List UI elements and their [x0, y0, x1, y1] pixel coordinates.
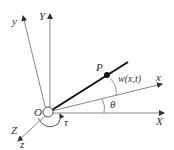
- label-P: P: [95, 61, 103, 73]
- label-X: X: [155, 115, 164, 127]
- y-axis-line: [23, 16, 46, 110]
- label-Z: Z: [11, 124, 18, 136]
- label-x: x: [155, 71, 161, 83]
- label-tau: τ: [64, 116, 69, 128]
- origin-hub: [43, 107, 53, 117]
- deflection-arc: [110, 78, 116, 96]
- label-z: z: [19, 138, 25, 150]
- x-axis-line: [52, 84, 162, 111]
- theta-arc: [102, 99, 105, 113]
- label-y: y: [11, 15, 17, 27]
- label-w: w(x,t): [118, 73, 142, 85]
- label-theta: θ: [110, 98, 116, 110]
- beam: [52, 62, 128, 110]
- rotating-beam-diagram: Y y X x Z z O P w(x,t) θ τ: [0, 0, 174, 150]
- point-P: [104, 72, 110, 78]
- label-Y: Y: [39, 10, 47, 22]
- label-O: O: [34, 106, 42, 118]
